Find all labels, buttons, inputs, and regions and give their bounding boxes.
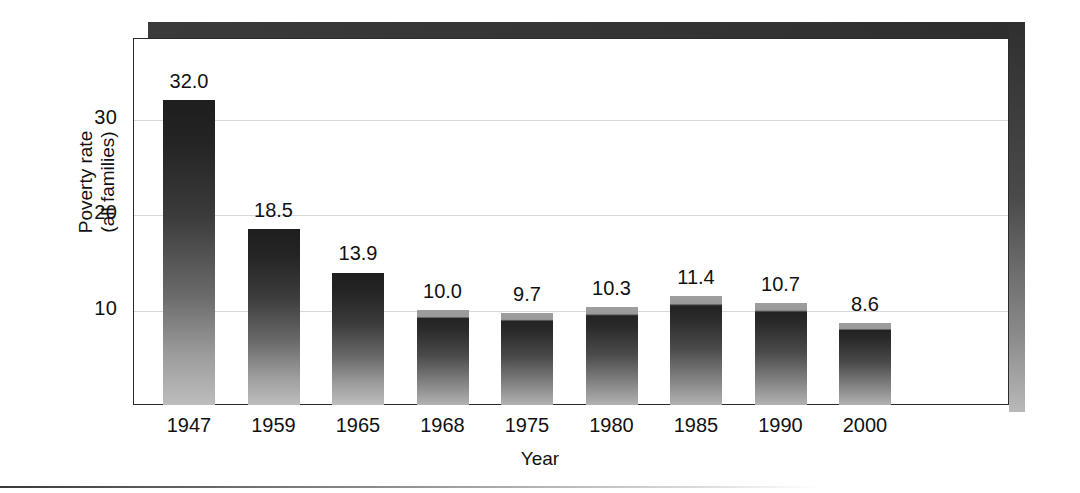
bar-1985 (670, 296, 722, 405)
bar-2000 (839, 323, 891, 405)
x-tick-label-1980: 1980 (567, 414, 657, 437)
bar-value-label-1975: 9.7 (482, 283, 572, 306)
y-tick-label-10: 10 (77, 297, 117, 320)
bar-1990 (755, 303, 807, 405)
frame-shadow-right (1009, 22, 1025, 412)
bar-value-label-1968: 10.0 (398, 280, 488, 303)
y-axis-title: Poverty rate (all families) (75, 82, 119, 282)
x-tick-label-1959: 1959 (229, 414, 319, 437)
y-axis-title-line2: (all families) (97, 82, 119, 282)
x-tick-label-1990: 1990 (736, 414, 826, 437)
x-tick-label-1965: 1965 (313, 414, 403, 437)
bar-value-label-1959: 18.5 (229, 199, 319, 222)
bar-value-label-1990: 10.7 (736, 273, 826, 296)
x-axis-title: Year (0, 448, 1080, 470)
bar-1947 (163, 100, 215, 405)
x-tick-label-1975: 1975 (482, 414, 572, 437)
poverty-rate-bar-chart: 302010 Poverty rate (all families) 32.01… (0, 0, 1080, 493)
bar-1980 (586, 307, 638, 405)
page-edge-rule (0, 486, 820, 488)
x-tick-label-1968: 1968 (398, 414, 488, 437)
bar-value-label-1985: 11.4 (651, 266, 741, 289)
bar-1975 (501, 313, 553, 405)
bar-value-label-1965: 13.9 (313, 242, 403, 265)
y-axis-title-line1: Poverty rate (75, 82, 97, 282)
bar-value-label-2000: 8.6 (820, 293, 910, 316)
bar-1965 (332, 273, 384, 406)
bar-value-label-1980: 10.3 (567, 277, 657, 300)
bar-1968 (417, 310, 469, 405)
x-tick-label-2000: 2000 (820, 414, 910, 437)
bar-value-label-1947: 32.0 (144, 70, 234, 93)
x-tick-label-1947: 1947 (144, 414, 234, 437)
bar-1959 (248, 229, 300, 405)
frame-shadow-top (148, 22, 1025, 38)
x-tick-label-1985: 1985 (651, 414, 741, 437)
